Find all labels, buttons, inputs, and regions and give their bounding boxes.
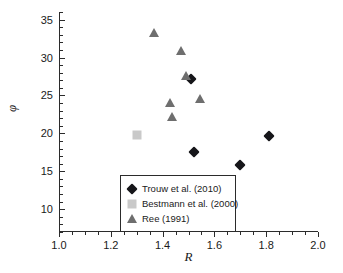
x-tick-minor [137, 232, 138, 235]
y-axis-line [59, 12, 60, 232]
x-tick-label: 1.2 [103, 240, 118, 251]
x-tick-minor [189, 232, 190, 235]
x-tick-minor [227, 232, 228, 235]
marker-triangle [127, 214, 137, 223]
y-tick-label: 30 [41, 52, 53, 63]
legend-label: Trouw et al. (2010) [142, 183, 221, 194]
y-tick-minor [60, 50, 63, 51]
y-tick-minor [60, 156, 63, 157]
y-tick-minor [60, 224, 63, 225]
y-tick-major [60, 95, 65, 96]
x-tick-minor [124, 232, 125, 235]
y-tick-minor [60, 186, 63, 187]
y-tick-minor [60, 118, 63, 119]
x-tick-minor [98, 232, 99, 235]
x-tick-label: 1.0 [51, 240, 66, 251]
y-tick-minor [60, 164, 63, 165]
marker-triangle [195, 94, 205, 103]
legend-label: Ree (1991) [142, 213, 190, 224]
y-tick-label: 25 [41, 90, 53, 101]
x-tick-minor [292, 232, 293, 235]
legend-item[interactable]: Trouw et al. (2010) [126, 181, 229, 196]
scatter-chart-figure: φ R 101520253035 1.01.21.41.61.82.0 Trou… [0, 0, 343, 273]
y-tick-minor [60, 12, 63, 13]
y-tick-minor [60, 103, 63, 104]
plot-area: 101520253035 1.01.21.41.61.82.0 Trouw et… [59, 12, 318, 232]
y-tick-minor [60, 27, 63, 28]
y-tick-minor [60, 65, 63, 66]
legend-swatch [126, 213, 138, 225]
y-tick-label: 20 [41, 128, 53, 139]
y-tick-minor [60, 217, 63, 218]
x-axis-title: R [59, 249, 318, 265]
x-tick-minor [305, 232, 306, 235]
y-tick-minor [60, 111, 63, 112]
chart-legend: Trouw et al. (2010)Bestmann et al. (2000… [120, 175, 236, 232]
x-tick-minor [85, 232, 86, 235]
x-tick-minor [150, 232, 151, 235]
x-tick-major [163, 232, 164, 237]
x-tick-minor [72, 232, 73, 235]
x-tick-minor [279, 232, 280, 235]
y-tick-major [60, 133, 65, 134]
x-tick-major [318, 232, 319, 237]
y-tick-minor [60, 73, 63, 74]
x-tick-major [59, 232, 60, 237]
x-tick-label: 1.8 [259, 240, 274, 251]
y-tick-minor [60, 80, 63, 81]
legend-swatch [126, 198, 138, 210]
y-tick-label: 15 [41, 166, 53, 177]
x-tick-major [214, 232, 215, 237]
x-tick-minor [240, 232, 241, 235]
legend-item[interactable]: Ree (1991) [126, 211, 229, 226]
marker-triangle [176, 46, 186, 55]
y-tick-minor [60, 42, 63, 43]
x-tick-major [111, 232, 112, 237]
legend-item[interactable]: Bestmann et al. (2000) [126, 196, 229, 211]
y-tick-minor [60, 202, 63, 203]
y-tick-label: 35 [41, 14, 53, 25]
y-tick-label: 10 [41, 204, 53, 215]
y-tick-minor [60, 88, 63, 89]
marker-square [128, 199, 137, 208]
marker-diamond [126, 183, 137, 194]
y-tick-minor [60, 194, 63, 195]
y-axis-title: φ [4, 105, 20, 112]
legend-swatch [126, 183, 138, 195]
y-tick-minor [60, 179, 63, 180]
marker-triangle [167, 112, 177, 121]
x-tick-minor [201, 232, 202, 235]
y-tick-major [60, 209, 65, 210]
x-tick-major [266, 232, 267, 237]
marker-diamond [263, 131, 274, 142]
y-tick-minor [60, 149, 63, 150]
x-tick-minor [253, 232, 254, 235]
y-tick-major [60, 58, 65, 59]
x-tick-label: 2.0 [310, 240, 325, 251]
marker-diamond [235, 160, 246, 171]
marker-triangle [181, 71, 191, 80]
y-tick-minor [60, 35, 63, 36]
y-tick-minor [60, 232, 63, 233]
y-tick-minor [60, 126, 63, 127]
y-tick-major [60, 20, 65, 21]
legend-label: Bestmann et al. (2000) [142, 198, 238, 209]
x-tick-minor [176, 232, 177, 235]
marker-square [132, 130, 141, 139]
x-tick-label: 1.6 [207, 240, 222, 251]
y-tick-minor [60, 141, 63, 142]
y-tick-major [60, 171, 65, 172]
x-tick-label: 1.4 [155, 240, 170, 251]
marker-triangle [165, 98, 175, 107]
marker-diamond [188, 147, 199, 158]
marker-triangle [149, 28, 159, 37]
